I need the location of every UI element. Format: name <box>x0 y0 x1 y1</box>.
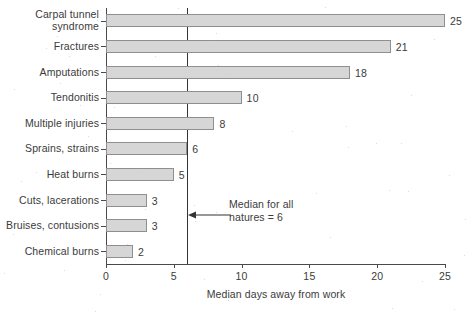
scan-speckle <box>408 191 409 192</box>
bar-value-3: 10 <box>247 92 259 104</box>
x-tick-label-25: 25 <box>439 270 451 282</box>
median-annotation-line2: natures = 6 <box>229 211 293 224</box>
bar-value-1: 21 <box>396 41 408 53</box>
scan-speckle <box>127 244 128 245</box>
x-tick-5 <box>174 264 175 268</box>
scan-speckle <box>195 221 196 222</box>
scan-speckle <box>4 273 5 274</box>
x-tick-label-5: 5 <box>171 270 177 282</box>
scan-speckle <box>216 33 217 34</box>
bar-2 <box>106 66 350 79</box>
bar-value-8: 3 <box>152 220 158 232</box>
bar-chart: 0510152025 Carpal tunnelsyndrome25Fractu… <box>0 0 471 314</box>
bar-7 <box>106 194 147 207</box>
bar-value-4: 8 <box>219 118 225 130</box>
scan-speckle <box>136 173 137 174</box>
scan-speckle <box>155 56 156 57</box>
scan-speckle <box>346 126 347 127</box>
scan-speckle <box>348 147 349 148</box>
scan-speckle <box>204 279 205 280</box>
scan-speckle <box>216 212 217 213</box>
scan-speckle <box>125 260 126 261</box>
scan-speckle <box>434 39 435 40</box>
scan-speckle <box>145 209 146 210</box>
scan-speckle <box>422 281 423 282</box>
scan-speckle <box>323 25 324 26</box>
category-label-7: Cuts, lacerations <box>3 195 99 207</box>
category-label-5: Sprains, strains <box>3 143 99 155</box>
scan-speckle <box>325 7 326 8</box>
bar-9 <box>106 245 133 258</box>
scan-speckle <box>114 107 115 108</box>
scan-speckle <box>376 143 377 144</box>
scan-speckle <box>60 83 61 84</box>
scan-speckle <box>64 270 65 271</box>
scan-speckle <box>69 56 70 57</box>
x-tick-label-10: 10 <box>236 270 248 282</box>
x-tick-10 <box>242 264 243 268</box>
x-axis-title: Median days away from work <box>106 288 446 300</box>
plot-area: 0510152025 Carpal tunnelsyndrome25Fractu… <box>0 0 471 314</box>
category-label-0-line2: syndrome <box>3 21 99 33</box>
scan-speckle <box>208 46 209 47</box>
bar-0 <box>106 14 445 27</box>
scan-speckle <box>465 219 466 220</box>
scan-speckle <box>454 309 455 310</box>
x-tick-label-15: 15 <box>303 270 315 282</box>
scan-speckle <box>316 193 317 194</box>
category-label-4: Multiple injuries <box>3 118 99 130</box>
bar-8 <box>106 219 147 232</box>
bar-3 <box>106 91 242 104</box>
scan-speckle <box>104 279 105 280</box>
scan-speckle <box>332 22 333 23</box>
scan-speckle <box>218 65 219 66</box>
scan-speckle <box>464 255 465 256</box>
scan-speckle <box>21 181 22 182</box>
bar-value-9: 2 <box>138 246 144 258</box>
scan-speckle <box>95 311 96 312</box>
category-label-1: Fractures <box>3 41 99 53</box>
scan-speckle <box>194 205 195 206</box>
scan-speckle <box>226 74 227 75</box>
scan-speckle <box>36 172 37 173</box>
bar-value-0: 25 <box>450 15 462 27</box>
bar-value-6: 5 <box>179 169 185 181</box>
x-tick-15 <box>309 264 310 268</box>
scan-speckle <box>14 89 15 90</box>
bar-value-5: 6 <box>192 143 198 155</box>
scan-speckle <box>46 48 47 49</box>
scan-speckle <box>57 36 58 37</box>
category-label-2: Amputations <box>3 67 99 79</box>
scan-speckle <box>401 143 402 144</box>
scan-speckle <box>178 8 179 9</box>
bar-4 <box>106 117 214 130</box>
category-label-3: Tendonitis <box>3 92 99 104</box>
scan-speckle <box>389 190 390 191</box>
category-label-6: Heat burns <box>3 169 99 181</box>
x-tick-label-0: 0 <box>103 270 109 282</box>
x-tick-25 <box>445 264 446 268</box>
x-axis-line <box>106 264 446 265</box>
scan-speckle <box>100 294 101 295</box>
scan-speckle <box>13 234 14 235</box>
x-tick-0 <box>106 264 107 268</box>
scan-speckle <box>229 294 230 295</box>
scan-speckle <box>392 308 393 309</box>
x-tick-label-20: 20 <box>371 270 383 282</box>
x-tick-20 <box>377 264 378 268</box>
scan-speckle <box>228 300 229 301</box>
scan-speckle <box>58 149 59 150</box>
median-annotation-line1: Median for all <box>229 198 293 211</box>
scan-speckle <box>411 95 412 96</box>
bar-5 <box>106 142 187 155</box>
scan-speckle <box>110 163 111 164</box>
median-annotation-arrow <box>188 209 232 221</box>
category-label-0: Carpal tunnelsyndrome <box>3 9 99 32</box>
bar-value-7: 3 <box>152 195 158 207</box>
scan-speckle <box>292 131 293 132</box>
bar-1 <box>106 40 391 53</box>
median-annotation-text: Median for all natures = 6 <box>229 198 293 223</box>
scan-speckle <box>88 136 89 137</box>
scan-speckle <box>449 175 450 176</box>
category-label-8: Bruises, contusions <box>3 220 99 232</box>
